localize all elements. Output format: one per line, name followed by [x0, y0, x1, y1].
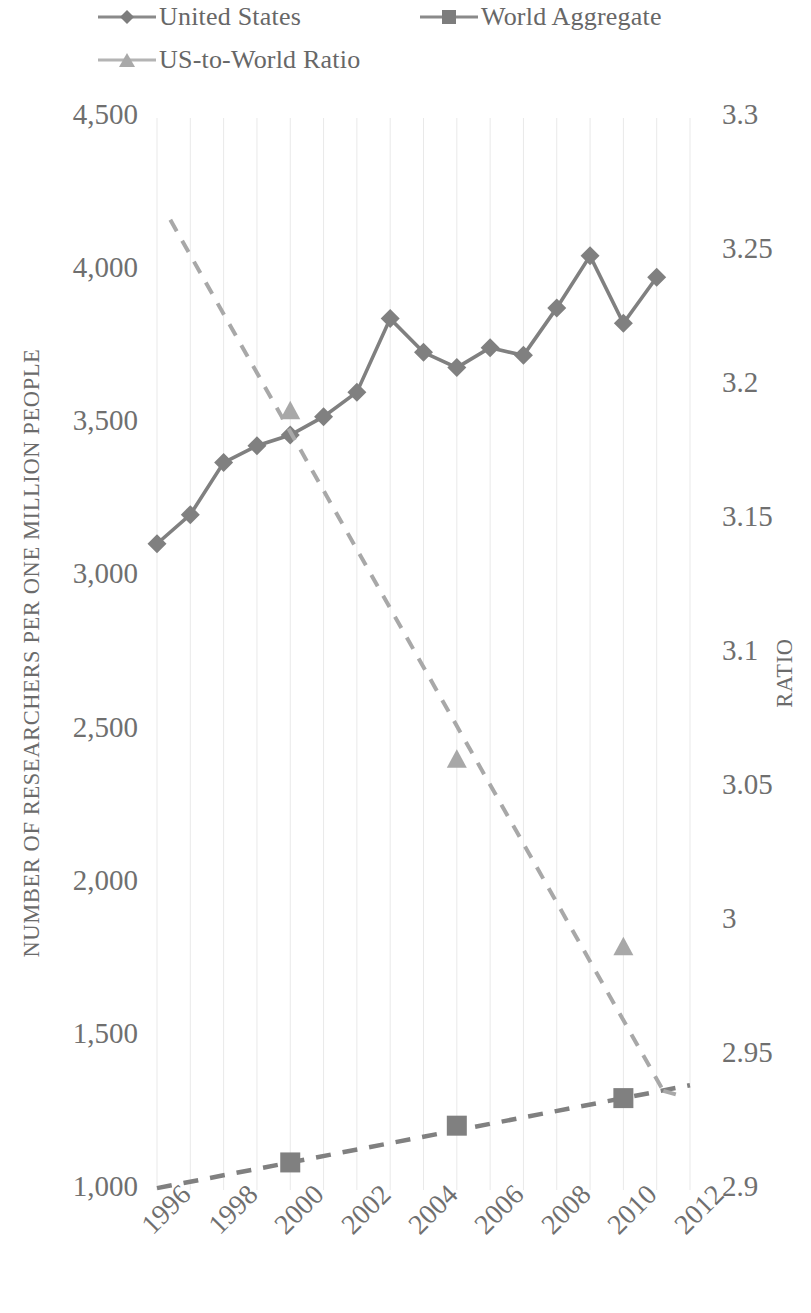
- y-axis-left-tick: 1,000: [28, 1170, 138, 1203]
- y-axis-left-tick: 3,000: [28, 557, 138, 590]
- y-axis-right-tick: 3.1: [722, 634, 811, 667]
- diamond-data-point: [214, 453, 233, 472]
- y-axis-left-tick: 4,000: [28, 251, 138, 284]
- y-axis-right-tick: 3.3: [722, 98, 811, 131]
- triangle-data-point: [613, 937, 633, 956]
- series-line: [157, 256, 657, 544]
- data-series-layer: [148, 220, 691, 1188]
- gridlines: [157, 118, 690, 1190]
- y-axis-right-tick: 3.15: [722, 500, 811, 533]
- plot-area: [0, 0, 811, 1313]
- y-axis-right-tick: 2.95: [722, 1036, 811, 1069]
- y-axis-left-tick: 1,500: [28, 1017, 138, 1050]
- y-axis-left-tick: 2,500: [28, 711, 138, 744]
- y-axis-left-tick: 4,500: [28, 98, 138, 131]
- square-data-point: [447, 1116, 467, 1136]
- y-axis-left-tick: 3,500: [28, 404, 138, 437]
- triangle-data-point: [447, 749, 467, 768]
- researchers-per-million-chart: United States World Aggregate US-to-Worl…: [0, 0, 811, 1313]
- y-axis-right-tick: 3.25: [722, 232, 811, 265]
- square-data-point: [280, 1152, 300, 1172]
- triangle-data-point: [280, 401, 300, 420]
- diamond-data-point: [581, 246, 600, 265]
- y-axis-right-tick: 3: [722, 902, 811, 935]
- square-data-point: [613, 1088, 633, 1108]
- diamond-data-point: [247, 436, 266, 455]
- y-axis-right-tick: 3.05: [722, 768, 811, 801]
- y-axis-right-tick: 2.9: [722, 1170, 811, 1203]
- series-united-states: [148, 246, 667, 553]
- ratio-trend-line-tail: [663, 1091, 683, 1097]
- diamond-data-point: [481, 338, 500, 357]
- diamond-data-point: [447, 358, 466, 377]
- y-axis-right-tick: 3.2: [722, 366, 811, 399]
- y-axis-left-tick: 2,000: [28, 864, 138, 897]
